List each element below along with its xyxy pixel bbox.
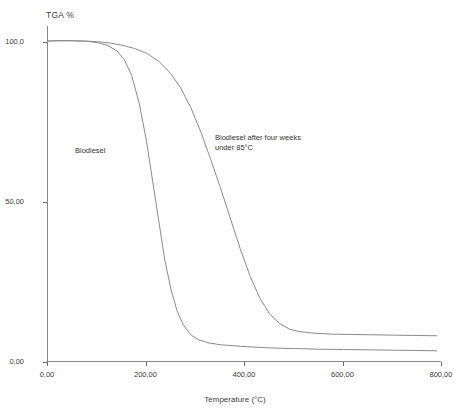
x-tick-label: 0,00 [40,370,55,379]
x-tick-mark [244,362,245,366]
x-axis-title: Temperature (°C) [0,395,470,404]
y-tick-label: 50,00 [5,197,24,206]
series-label-biodiesel-aged: Biodiesel after four weeks under 85°C [215,133,301,153]
x-tick-label: 600,00 [331,370,354,379]
x-tick-mark [441,362,442,366]
series-line-biodiesel [48,41,437,351]
x-tick-mark [146,362,147,366]
series-line-biodiesel-aged [48,41,437,336]
x-tick-mark [47,362,48,366]
tga-chart: TGA % 100,050,000,00 0,00200,00400,00600… [0,0,470,419]
x-tick-mark [343,362,344,366]
y-tick-label: 0,00 [9,357,24,366]
x-tick-label: 800,00 [430,370,453,379]
x-tick-label: 200,00 [134,370,157,379]
y-axis-ticks: 100,050,000,00 [0,0,44,419]
series-label-biodiesel: Biodiesel [75,146,105,156]
y-axis-title: TGA % [46,10,74,20]
y-tick-label: 100,0 [5,37,24,46]
plot-area [47,26,441,362]
series-curves [48,26,442,362]
x-tick-label: 400,00 [233,370,256,379]
